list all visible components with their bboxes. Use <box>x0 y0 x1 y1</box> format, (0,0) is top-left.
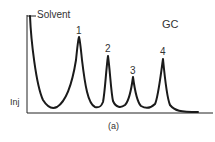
solvent-label: Solvent <box>37 10 70 20</box>
peak-label-4: 4 <box>160 47 166 57</box>
peak-label-2: 2 <box>105 44 111 54</box>
peak-label-1: 1 <box>76 26 82 36</box>
chromatogram-trace <box>30 16 198 112</box>
figure-caption: (a) <box>108 122 119 131</box>
injection-label: Inj <box>10 98 20 107</box>
chart-title: GC <box>162 19 179 30</box>
peak-label-3: 3 <box>130 66 136 76</box>
